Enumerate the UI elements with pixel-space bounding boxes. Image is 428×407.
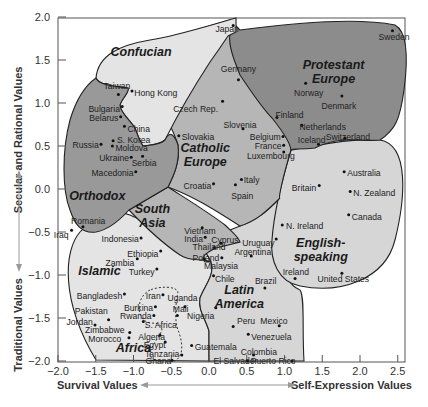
country-label: Australia [347, 168, 381, 178]
x-tick-label: 0.5 [239, 365, 254, 377]
x-tick-label: 2.5 [390, 365, 405, 377]
region-label: Islamic [78, 264, 120, 278]
point-marker-icon [180, 353, 183, 356]
region-label: English-speaking [294, 236, 349, 264]
point-marker-icon [100, 143, 103, 146]
country-label: Iran [146, 291, 161, 301]
point-marker-icon [282, 144, 285, 147]
region-label: Confucian [110, 45, 171, 59]
point-marker-icon [152, 314, 155, 317]
country-point: Indonesia [102, 234, 143, 244]
point-marker-icon [117, 93, 120, 96]
point-marker-icon [247, 333, 250, 336]
country-label: Ghana [146, 356, 172, 366]
x-tick-label: 2.0 [352, 365, 367, 377]
country-label: Macedonia [91, 168, 133, 178]
x-axis-title-left: Survival Values [57, 379, 138, 391]
point-marker-icon [119, 115, 122, 118]
x-tick-label: 1.5 [315, 365, 330, 377]
country-label: Pakistan [75, 306, 108, 316]
point-marker-icon [232, 325, 235, 328]
country-label: France [255, 141, 282, 151]
point-marker-icon [340, 95, 343, 98]
country-point: Slovenia [223, 120, 256, 131]
country-label: N. Zealand [353, 188, 395, 198]
country-label: Puerto Rico [251, 356, 296, 366]
country-label: Slovenia [223, 120, 256, 130]
y-axis-title-top: Secular and Rational Values [12, 67, 24, 214]
country-label: Bangladesh [77, 291, 123, 301]
country-label: Belarus [89, 113, 118, 123]
point-marker-icon [237, 78, 240, 81]
country-label: Moldova [115, 143, 148, 153]
point-marker-icon [294, 277, 297, 280]
point-marker-icon [70, 229, 73, 232]
country-label: Taiwan [104, 81, 131, 91]
x-axis-title-right: Self-Expression Values [291, 379, 412, 391]
country-point: Iceland [298, 135, 326, 146]
y-tick-label: −2.0 [28, 355, 50, 367]
point-marker-icon [349, 190, 352, 193]
country-point: S. Africa [142, 320, 177, 330]
point-marker-icon [134, 170, 137, 173]
country-label: Switzerland [326, 132, 371, 142]
country-label: Russia [72, 140, 98, 150]
point-marker-icon [204, 236, 207, 239]
country-point: Turkey [129, 267, 159, 277]
point-marker-icon [281, 224, 284, 227]
point-marker-icon [161, 293, 164, 296]
country-point: Australia [343, 168, 381, 178]
country-label: Denmark [321, 101, 357, 111]
x-tick-label: 0.0 [201, 365, 216, 377]
x-tick-label: −2.0 [47, 365, 69, 377]
region-label: SouthAsia [135, 202, 171, 230]
country-point: Switzerland [326, 132, 371, 142]
point-marker-icon [234, 183, 237, 186]
country-label: Argentina [234, 247, 271, 257]
country-label: Peru [237, 316, 255, 326]
country-label: China [127, 124, 150, 134]
y-tick-label: 1.5 [35, 54, 50, 66]
country-point: Hong Kong [130, 88, 177, 98]
country-label: Spain [231, 191, 253, 201]
y-axis-titles: Secular and Rational Values Traditional … [12, 67, 24, 372]
country-label: Ukraine [99, 153, 129, 163]
point-marker-icon [121, 105, 124, 108]
point-marker-icon [347, 213, 350, 216]
point-marker-icon [107, 318, 110, 321]
y-tick-label: 1.0 [35, 97, 50, 109]
y-axis-title-bottom: Traditional Values [12, 278, 24, 372]
y-tick-label: −1.0 [28, 269, 50, 281]
country-label: Indonesia [102, 234, 139, 244]
country-point: Croatia [184, 181, 215, 191]
y-tick-label: −0.5 [28, 226, 50, 238]
country-label: Britain [292, 183, 317, 193]
point-marker-icon [221, 100, 224, 103]
country-label: Guatemala [195, 342, 237, 352]
point-marker-icon [123, 292, 126, 295]
y-tick-label: 0.0 [35, 183, 50, 195]
country-label: Iceland [298, 135, 326, 145]
point-marker-icon [318, 184, 321, 187]
x-tick-label: −0.5 [160, 365, 182, 377]
point-marker-icon [281, 135, 284, 138]
country-label: Turkey [129, 267, 156, 277]
country-label: Thailand [193, 242, 226, 252]
x-axis-titles: Survival Values Self-Expression Values [57, 379, 412, 391]
country-point: Finland [275, 110, 303, 120]
country-label: Canada [352, 212, 382, 222]
country-point: Canada [347, 212, 382, 222]
point-marker-icon [240, 178, 243, 181]
country-point: Thailand [193, 242, 226, 252]
country-point: N. Ireland [281, 221, 324, 231]
point-marker-icon [304, 82, 307, 85]
country-point: France [255, 141, 286, 151]
region-label: CatholicEurope [181, 141, 230, 169]
y-arrow-down-icon [16, 264, 22, 272]
country-label: Romania [71, 216, 106, 226]
point-marker-icon [140, 237, 143, 240]
country-label: Sweden [378, 32, 409, 42]
point-marker-icon [123, 125, 126, 128]
country-point: Ghana [146, 356, 174, 366]
region-label: Orthodox [69, 189, 126, 203]
